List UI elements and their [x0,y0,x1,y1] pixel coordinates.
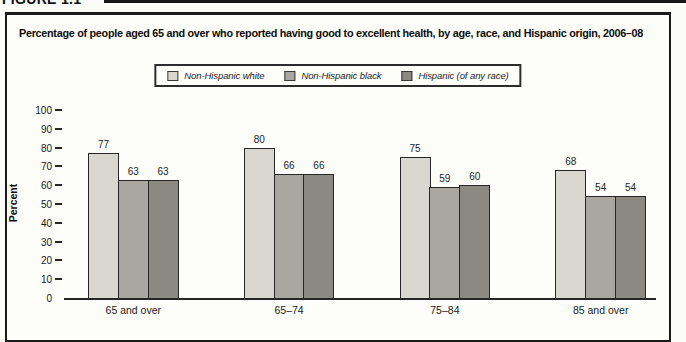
y-tick-label: 70 [18,161,52,172]
y-tick-mark [55,109,62,111]
category-label: 85 and over [573,304,628,316]
legend-label: Hispanic (of any race) [418,70,508,81]
y-tick-mark [55,184,62,186]
bar-value-label: 63 [128,166,139,177]
y-tick-mark [55,203,62,205]
y-tick-label: 10 [18,274,52,285]
bar: 59 [429,187,460,298]
figure-label: FIGURE 1.1 [2,0,81,7]
bar-value-label: 59 [439,173,450,184]
bar: 66 [303,174,334,298]
top-rule [104,0,686,3]
y-tick-label: 0 [18,293,52,304]
bar-group: 80666665–74 [244,110,335,298]
legend-swatch [167,71,178,81]
bar-value-label: 54 [625,182,636,193]
legend-item: Non-Hispanic white [167,70,264,81]
category-label: 65–74 [274,304,303,316]
bar-value-label: 77 [98,139,109,150]
bar: 68 [555,170,586,298]
bar-group: 77636365 and over [88,110,179,298]
bar: 80 [244,148,275,298]
y-tick-mark [55,222,62,224]
bar-group: 75596075–84 [400,110,491,298]
bar: 77 [88,153,119,298]
chart-legend: Non-Hispanic whiteNon-Hispanic blackHisp… [154,64,521,87]
legend-label: Non-Hispanic black [301,70,381,81]
bar-value-label: 60 [469,171,480,182]
bar: 54 [585,196,616,298]
plot-area: 010203040506070809010077636365 and over8… [64,110,656,300]
y-tick-label: 100 [18,105,52,116]
bar-value-label: 68 [565,156,576,167]
bar-value-label: 54 [595,182,606,193]
bar-group-bars: 685454 [555,110,646,298]
bar-group-bars: 755960 [400,110,491,298]
legend-swatch [401,71,412,81]
y-tick-label: 80 [18,143,52,154]
bar: 63 [118,180,149,298]
legend-label: Non-Hispanic white [184,70,264,81]
y-tick-label: 60 [18,180,52,191]
y-tick-mark [55,278,62,280]
category-label: 65 and over [106,304,161,316]
y-tick-mark [55,128,62,130]
bar: 75 [400,157,431,298]
y-tick-label: 20 [18,255,52,266]
y-tick-label: 30 [18,237,52,248]
bar-value-label: 75 [410,143,421,154]
bar-group: 68545485 and over [555,110,646,298]
legend-item: Hispanic (of any race) [401,70,508,81]
legend-item: Non-Hispanic black [284,70,381,81]
bar-group-bars: 806666 [244,110,335,298]
bar: 60 [459,185,490,298]
bar: 66 [274,174,305,298]
bar-value-label: 66 [284,160,295,171]
y-tick-mark [55,259,62,261]
bar-value-label: 63 [158,166,169,177]
y-tick-mark [55,147,62,149]
y-tick-mark [55,241,62,243]
y-tick-label: 50 [18,199,52,210]
bar-value-label: 66 [313,160,324,171]
bar-group-bars: 776363 [88,110,179,298]
y-tick-mark [55,165,62,167]
figure-box: Percentage of people aged 65 and over wh… [5,12,671,342]
bar-value-label: 80 [254,134,265,145]
category-label: 75–84 [430,304,459,316]
figure-title: Percentage of people aged 65 and over wh… [19,27,622,39]
y-tick-label: 40 [18,218,52,229]
legend-swatch [284,71,295,81]
y-tick-label: 90 [18,124,52,135]
bar: 63 [148,180,179,298]
bar: 54 [615,196,646,298]
